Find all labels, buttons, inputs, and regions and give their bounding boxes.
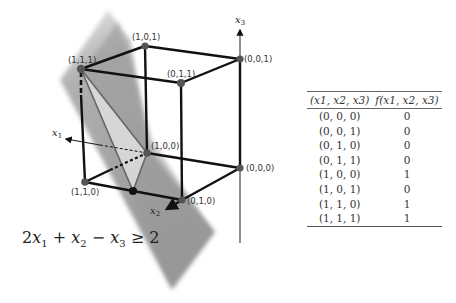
vertex-label: (0,1,0): [187, 196, 215, 206]
vertex-label: (0,1,1): [167, 69, 195, 79]
vertex-110: [81, 178, 89, 186]
vertex-label: (0,0,1): [244, 54, 272, 64]
operator: ≥: [131, 228, 144, 247]
vertex-011: [177, 79, 185, 87]
plane-inequality: 2x1 + x2 − x3 ≥ 2: [22, 228, 159, 249]
header-output: f(x1, x2, x3): [372, 92, 441, 109]
table-row: (0, 0, 0)0: [307, 109, 442, 124]
vertex-000: [236, 164, 243, 171]
cell-input: (0, 1, 0): [307, 138, 372, 153]
cell-input: (1, 0, 0): [307, 167, 372, 182]
cell-output: 0: [372, 153, 441, 168]
table-row: (1, 1, 0)1: [307, 197, 442, 212]
cell-output: 1: [372, 211, 441, 226]
cell-input: (1, 0, 1): [307, 182, 372, 197]
cell-input: (0, 0, 1): [307, 124, 372, 139]
vertex-101: [141, 42, 148, 49]
operator: +: [53, 228, 66, 247]
table-row: (0, 1, 1)0: [307, 153, 442, 168]
plane-intersection-point: [129, 187, 137, 195]
cell-output: 0: [372, 138, 441, 153]
table-row: (0, 0, 1)0: [307, 124, 442, 139]
x3-axis-label: x3: [235, 14, 245, 27]
table-row: (1, 0, 1)0: [307, 182, 442, 197]
coefficient: 2: [22, 228, 32, 247]
cell-input: (0, 0, 0): [307, 109, 372, 124]
table-row: (0, 1, 0)0: [307, 138, 442, 153]
vertex-label: (0,0,0): [246, 163, 274, 173]
table-header-row: (x1, x2, x3) f(x1, x2, x3): [307, 92, 442, 109]
cell-input: (1, 1, 0): [307, 197, 372, 212]
cell-output: 0: [372, 124, 441, 139]
vertex-100: [143, 149, 151, 157]
cell-output: 0: [372, 109, 441, 124]
cell-output: 1: [372, 167, 441, 182]
table-row: (1, 1, 1)1: [307, 211, 442, 226]
vertex-label: (1,1,1): [68, 55, 96, 65]
operator: −: [92, 228, 105, 247]
vertex-label: (1,0,1): [132, 32, 160, 42]
cell-input: (1, 1, 1): [307, 211, 372, 226]
cube-diagram: x3 x1 x2 (1,: [0, 0, 300, 303]
cell-output: 0: [372, 182, 441, 197]
cell-input: (0, 1, 1): [307, 153, 372, 168]
vertex-label: (1,1,0): [71, 187, 99, 197]
rhs-value: 2: [149, 228, 159, 247]
cell-output: 1: [372, 197, 441, 212]
table-row: (1, 0, 0)1: [307, 167, 442, 182]
vertex-label: (1,0,0): [151, 141, 179, 151]
truth-table: (x1, x2, x3) f(x1, x2, x3) (0, 0, 0)0 (0…: [307, 91, 442, 227]
header-input: (x1, x2, x3): [307, 92, 372, 109]
x1-axis-label: x1: [52, 127, 62, 140]
vertex-010: [178, 196, 185, 203]
vertex-001: [236, 55, 243, 62]
vertex-111: [77, 65, 85, 73]
